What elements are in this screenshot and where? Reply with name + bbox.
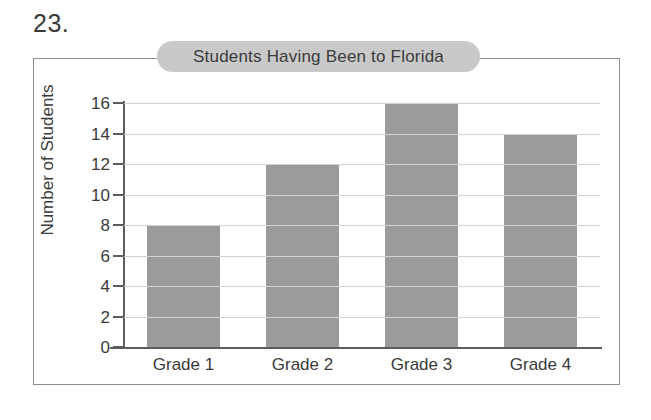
y-axis-tick-label: 0: [76, 339, 110, 356]
x-axis-tick-label: Grade 2: [243, 356, 363, 373]
y-axis-tick-label: 8: [76, 217, 110, 234]
y-axis-tick-labels: 1614121086420: [70, 0, 110, 420]
gridline: [124, 256, 600, 257]
gridline: [124, 134, 600, 135]
y-axis-tick-label: 14: [76, 126, 110, 143]
x-axis-line: [110, 347, 602, 349]
chart-title-banner: Students Having Been to Florida: [157, 41, 480, 72]
x-axis-tick-label: Grade 4: [481, 356, 601, 373]
gridline: [124, 195, 600, 196]
chart-title: Students Having Been to Florida: [193, 47, 444, 67]
y-axis-title: Number of Students: [38, 75, 58, 245]
problem-number: 23.: [33, 11, 69, 36]
plot-area: [124, 103, 600, 347]
gridline: [124, 164, 600, 165]
y-axis-tick-label: 2: [76, 309, 110, 326]
y-axis-tick-label: 16: [76, 95, 110, 112]
x-axis-tick-label: Grade 1: [124, 356, 244, 373]
y-axis-tick-label: 12: [76, 156, 110, 173]
gridline: [124, 225, 600, 226]
gridline: [124, 286, 600, 287]
gridline: [124, 317, 600, 318]
gridline: [124, 103, 600, 104]
y-axis-tick-label: 10: [76, 187, 110, 204]
x-axis-tick-label: Grade 3: [362, 356, 482, 373]
bar: [504, 134, 577, 348]
y-axis-tick-label: 6: [76, 248, 110, 265]
y-axis-tick-label: 4: [76, 278, 110, 295]
